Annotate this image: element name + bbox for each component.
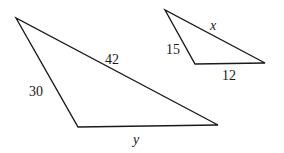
large-bottom-side-label: y	[131, 132, 140, 147]
small-bottom-side-label: 12	[222, 68, 236, 83]
large-triangle: 30 42 y	[16, 18, 218, 147]
similar-triangles-diagram: 30 42 y 15 x 12	[0, 0, 284, 153]
large-left-side-label: 30	[29, 84, 43, 99]
large-triangle-shape	[16, 18, 218, 127]
small-top-side-label: x	[209, 18, 217, 33]
large-top-side-label: 42	[105, 52, 119, 67]
small-left-side-label: 15	[166, 42, 180, 57]
small-triangle: 15 x 12	[165, 10, 265, 83]
